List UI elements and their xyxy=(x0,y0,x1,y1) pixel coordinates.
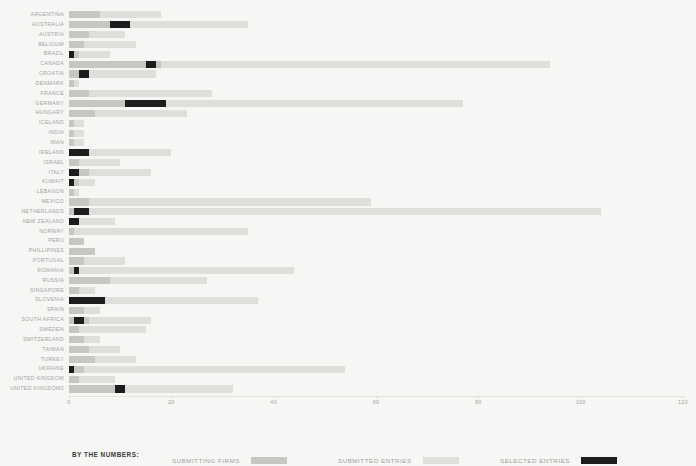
row-label: MEXICO xyxy=(0,197,64,207)
bar-submitting-firms xyxy=(69,159,79,166)
bar-submitted-entries xyxy=(69,90,212,97)
row-label: ISRAEL xyxy=(0,158,64,168)
row-label: SOUTH AFRICA xyxy=(0,315,64,325)
chart-row: MEXICO xyxy=(0,197,696,207)
chart-row: DENMARK xyxy=(0,79,696,89)
axis-tick-mark xyxy=(581,396,582,398)
row-bars xyxy=(69,169,696,176)
chart-row: ISRAEL xyxy=(0,158,696,168)
bar-selected-entries xyxy=(69,169,79,176)
bar-submitting-firms xyxy=(69,80,74,87)
row-label: DENMARK xyxy=(0,79,64,89)
chart-row: SINGAPORE xyxy=(0,286,696,296)
chart-row: KUWAIT xyxy=(0,177,696,187)
row-label: NEW ZEALAND xyxy=(0,217,64,227)
bar-submitting-firms xyxy=(69,189,74,196)
row-label: AUSTRALIA xyxy=(0,20,64,30)
chart-row: SPAIN xyxy=(0,305,696,315)
bar-selected-entries xyxy=(69,51,74,58)
bar-submitting-firms xyxy=(69,41,84,48)
chart-row: IRELAND xyxy=(0,148,696,158)
axis-tick-mark xyxy=(171,396,172,398)
bar-submitting-firms xyxy=(69,90,89,97)
bar-submitting-firms xyxy=(69,257,84,264)
bar-selected-entries xyxy=(69,297,105,304)
bar-selected-entries xyxy=(115,385,125,392)
bar-submitting-firms xyxy=(69,228,74,235)
bar-submitting-firms xyxy=(69,120,74,127)
bar-submitting-firms xyxy=(69,307,84,314)
row-bars xyxy=(69,317,696,324)
row-bars xyxy=(69,307,696,314)
row-label: HUNGARY xyxy=(0,108,64,118)
row-bars xyxy=(69,189,696,196)
row-label: UNITED KINGDOM2 xyxy=(0,384,64,394)
chart-row: ICELAND xyxy=(0,118,696,128)
bar-selected-entries xyxy=(79,70,89,77)
bar-selected-entries xyxy=(146,61,156,68)
bar-submitted-entries xyxy=(69,198,371,205)
row-label: SWEDEN xyxy=(0,325,64,335)
row-label: ICELAND xyxy=(0,118,64,128)
legend-label-selected-entries: SELECTED ENTRIES xyxy=(500,457,570,464)
bar-selected-entries xyxy=(74,267,79,274)
chart-row: LEBANON xyxy=(0,187,696,197)
row-bars xyxy=(69,297,696,304)
row-bars xyxy=(69,90,696,97)
chart-row: ROMANIA xyxy=(0,266,696,276)
axis-tick-label: 40 xyxy=(270,399,277,405)
chart-row: UNITED KINGDOM2 xyxy=(0,384,696,394)
row-bars xyxy=(69,287,696,294)
chart-row: BRAZIL xyxy=(0,49,696,59)
chart-row: NORWAY xyxy=(0,227,696,237)
row-label: NETHERLANDS xyxy=(0,207,64,217)
row-label: RUSSIA xyxy=(0,276,64,286)
chart-row: UKRAINE xyxy=(0,364,696,374)
plot-area: ARGENTINAAUSTRALIAAUSTRIABELGIUMBRAZILCA… xyxy=(0,10,696,395)
bar-submitting-firms xyxy=(69,385,120,392)
bar-selected-entries xyxy=(110,21,130,28)
bar-submitting-firms xyxy=(69,326,79,333)
row-bars xyxy=(69,336,696,343)
row-bars xyxy=(69,179,696,186)
chart-row: SOUTH AFRICA xyxy=(0,315,696,325)
row-bars xyxy=(69,277,696,284)
chart-row: PERU xyxy=(0,236,696,246)
legend-item-submitting-firms: SUBMITTING FIRMS xyxy=(172,451,287,460)
bar-submitting-firms xyxy=(69,277,110,284)
chart-row: PHILLIPINES xyxy=(0,246,696,256)
row-label: CANADA xyxy=(0,59,64,69)
row-label: AUSTRIA xyxy=(0,30,64,40)
row-label: UKRAINE xyxy=(0,364,64,374)
row-bars xyxy=(69,198,696,205)
bar-submitting-firms xyxy=(69,356,95,363)
bar-submitted-entries xyxy=(69,267,294,274)
row-bars xyxy=(69,356,696,363)
row-bars xyxy=(69,51,696,58)
axis-tick-label: 60 xyxy=(373,399,380,405)
chart-row: INDIA xyxy=(0,128,696,138)
row-label: TURKEY xyxy=(0,355,64,365)
row-label: SLOVENIA xyxy=(0,295,64,305)
legend-label-submitting-firms: SUBMITTING FIRMS xyxy=(172,457,240,464)
row-label: ROMANIA xyxy=(0,266,64,276)
chart-row: UNITED KINGDOM xyxy=(0,374,696,384)
row-label: BELGIUM xyxy=(0,40,64,50)
row-label: NORWAY xyxy=(0,227,64,237)
row-bars xyxy=(69,31,696,38)
chart-row: TURKEY xyxy=(0,355,696,365)
row-bars xyxy=(69,238,696,245)
row-label: SINGAPORE xyxy=(0,286,64,296)
legend-label-submitted-entries: SUBMITTED ENTRIES xyxy=(338,457,412,464)
row-bars xyxy=(69,376,696,383)
bar-submitting-firms xyxy=(69,336,84,343)
axis-tick-mark xyxy=(274,396,275,398)
row-bars xyxy=(69,149,696,156)
row-bars xyxy=(69,80,696,87)
bar-submitting-firms xyxy=(69,238,84,245)
row-label: ARGENTINA xyxy=(0,10,64,20)
chart-row: CANADA xyxy=(0,59,696,69)
row-label: BRAZIL xyxy=(0,49,64,59)
chart-row: SLOVENIA xyxy=(0,295,696,305)
bar-submitting-firms xyxy=(69,248,95,255)
